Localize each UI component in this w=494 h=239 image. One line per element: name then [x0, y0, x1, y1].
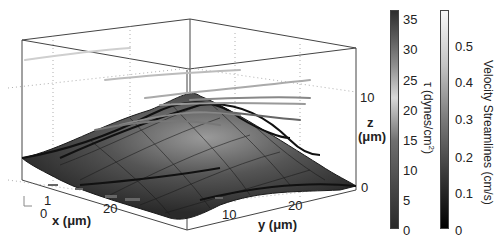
- shear-stress-colorbar-label: τ (dynes/cm2): [422, 82, 437, 154]
- x-axis-label: x (μm): [52, 214, 91, 228]
- y-axis-label: y (μm): [258, 218, 297, 232]
- vel-tick-0.2: 0.2: [455, 151, 473, 164]
- x-tick-0: 0: [40, 207, 47, 220]
- tau-tick-5: 5: [403, 194, 410, 207]
- tau-tick-20: 20: [403, 104, 417, 117]
- vel-tick-0.5: 0.5: [455, 40, 473, 53]
- vel-tick-0: 0: [455, 224, 462, 237]
- y-tick-10: 10: [222, 208, 236, 221]
- z-tick-0: 0: [361, 181, 368, 194]
- tau-tick-30: 30: [403, 43, 417, 56]
- tau-tick-10: 10: [403, 164, 417, 177]
- y-tick-20: 20: [288, 199, 302, 212]
- x-tick-20: 20: [103, 202, 117, 215]
- z-tick-10: 10: [360, 91, 374, 104]
- axis-indicator-icon: [24, 196, 32, 206]
- tau-tick-15: 15: [403, 134, 417, 147]
- 3d-surface-plot: [0, 0, 380, 239]
- vel-tick-0.1: 0.1: [455, 187, 473, 200]
- tau-tick-35: 35: [403, 13, 417, 26]
- velocity-colorbar-label: Velocity Streamlines (cm/s): [482, 60, 494, 205]
- z-axis-label-line2: (μm): [358, 130, 386, 144]
- shear-stress-colorbar: [390, 10, 399, 229]
- velocity-colorbar: [440, 10, 449, 229]
- tau-tick-0: 0: [403, 224, 410, 237]
- z-axis-label-line1: z: [367, 116, 374, 130]
- tau-tick-25: 25: [403, 74, 417, 87]
- vel-tick-0.3: 0.3: [455, 113, 473, 126]
- vel-tick-0.4: 0.4: [455, 76, 473, 89]
